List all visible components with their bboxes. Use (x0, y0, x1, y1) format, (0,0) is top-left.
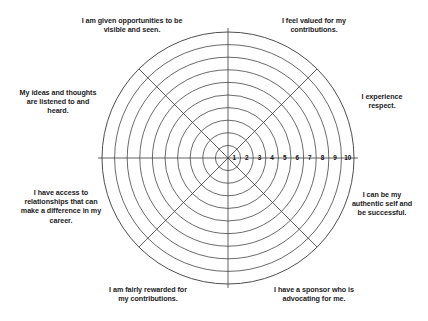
axis-label-relationships: I have access to relationships that can … (6, 188, 116, 225)
scale-tick-6: 6 (296, 154, 300, 161)
scale-tick-5: 5 (283, 154, 287, 161)
axis-label-respect: I experience respect. (338, 92, 426, 110)
assessment-wheel-chart: 12345678910 I am given opportunities to … (0, 0, 428, 321)
scale-tick-7: 7 (308, 154, 312, 161)
radial-spokes (98, 28, 358, 288)
axis-label-fairly-rewarded: I am fairly rewarded for my contribution… (80, 285, 216, 303)
wheel-grid-svg (0, 0, 428, 321)
scale-tick-3: 3 (258, 154, 262, 161)
scale-tick-2: 2 (245, 154, 249, 161)
scale-tick-4: 4 (270, 154, 274, 161)
scale-tick-1: 1 (233, 154, 237, 161)
axis-label-valued: I feel valued for my contributions. (250, 16, 378, 34)
scale-tick-8: 8 (321, 154, 325, 161)
axis-label-ideas-heard: My ideas and thoughts are listened to an… (6, 88, 110, 116)
axis-label-sponsor: I have a sponsor who is advocating for m… (248, 285, 380, 303)
axis-label-authentic-self: I can be my authentic self and be succes… (338, 190, 426, 218)
axis-label-visibility: I am given opportunities to be visible a… (62, 16, 202, 34)
scale-tick-10: 10 (344, 154, 351, 161)
scale-tick-9: 9 (333, 154, 337, 161)
